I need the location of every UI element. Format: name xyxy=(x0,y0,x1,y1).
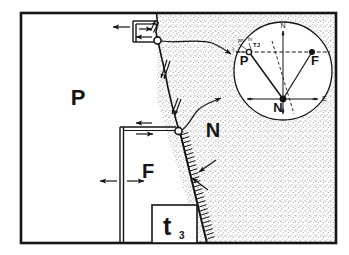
plate-label-f: F xyxy=(142,160,154,182)
time-step-label: t xyxy=(163,212,172,240)
velocity-triangle-inset: N E P F N f pn fn TJ xyxy=(233,22,332,120)
plate-label-p: P xyxy=(71,85,86,110)
plate-label-n: N xyxy=(206,119,220,141)
inset-micro-label-tj: TJ xyxy=(253,42,260,48)
triple-junction-node-upper xyxy=(154,37,161,44)
vertex-label-n: N xyxy=(273,100,282,115)
figure-container: t 3 P N F N E xyxy=(0,0,349,255)
inset-micro-label-fn: fn xyxy=(248,36,252,42)
tectonic-triple-junction-diagram: t 3 P N F N E xyxy=(0,0,349,255)
vertex-label-f: F xyxy=(311,53,319,68)
time-step-box xyxy=(152,205,197,243)
time-step-subscript: 3 xyxy=(179,230,185,241)
triple-junction-node-lower xyxy=(175,127,182,134)
inset-micro-label-pn: pn xyxy=(238,37,244,43)
compass-label-north: N xyxy=(280,22,285,29)
compass-label-east: E xyxy=(322,95,327,102)
vertex-label-p: P xyxy=(240,53,249,68)
